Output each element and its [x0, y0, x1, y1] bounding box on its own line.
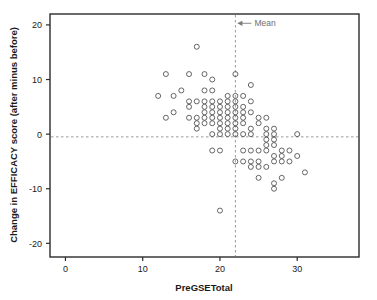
mean-line-label: Mean	[254, 18, 276, 28]
y-axis-ticks: 20100-10-20	[29, 20, 50, 248]
x-axis-title: PreGSETotal	[175, 282, 232, 293]
scatter-plot-figure: 20100-10-20 0102030 Mean PreGSETotal Cha…	[0, 0, 377, 300]
x-tick-label: 10	[138, 264, 148, 274]
plot-frame	[50, 14, 359, 257]
plot-border	[50, 14, 359, 257]
y-tick-label: -20	[29, 239, 42, 249]
y-axis-title: Change in EFFICACY score (after minus be…	[8, 27, 19, 243]
x-tick-label: 0	[63, 264, 68, 274]
x-tick-label: 20	[215, 264, 225, 274]
y-tick-label: 0	[37, 130, 42, 140]
y-tick-label: 20	[32, 20, 42, 30]
x-tick-label: 30	[292, 264, 302, 274]
y-tick-label: 10	[32, 75, 42, 85]
x-axis-ticks: 0102030	[63, 257, 302, 274]
chart-canvas: 20100-10-20 0102030 Mean PreGSETotal Cha…	[0, 0, 377, 300]
y-tick-label: -10	[29, 184, 42, 194]
